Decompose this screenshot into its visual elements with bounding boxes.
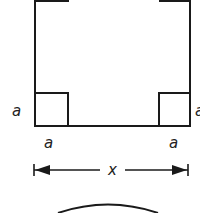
corner-square-right — [159, 93, 190, 126]
label-right-side: a — [195, 102, 200, 120]
label-dimension-x: x — [107, 161, 117, 179]
label-bottom-left: a — [44, 134, 53, 152]
label-left-side: a — [12, 102, 21, 120]
arrowhead-left-icon — [35, 165, 50, 175]
corner-square-left — [35, 93, 68, 126]
bottom-arc — [58, 205, 158, 214]
diagram-canvas: a a a a x — [0, 0, 200, 213]
arrowhead-right-icon — [172, 165, 187, 175]
label-bottom-right: a — [169, 134, 178, 152]
